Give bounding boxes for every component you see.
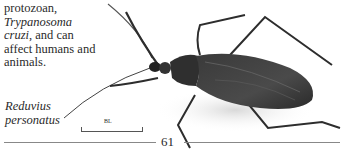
footer-rule-left bbox=[4, 142, 156, 143]
footer-rule-right bbox=[184, 142, 340, 143]
caption-line: Reduvius bbox=[5, 99, 60, 113]
intro-text: protozoan, Trypanosoma cruzi, and can af… bbox=[4, 2, 124, 70]
species-name: cruzi bbox=[4, 28, 29, 42]
caption-line: personatus bbox=[5, 113, 60, 127]
scale-bar-label: BL bbox=[104, 118, 112, 124]
intro-line: , and can bbox=[29, 28, 74, 42]
page-number: 61 bbox=[161, 134, 174, 150]
scale-bar bbox=[81, 127, 143, 132]
intro-line: affect humans and bbox=[4, 43, 124, 57]
species-name: Trypanosoma bbox=[4, 15, 72, 29]
figure-caption: Reduvius personatus bbox=[5, 99, 60, 127]
intro-line: protozoan, bbox=[4, 2, 124, 16]
intro-line: animals. bbox=[4, 56, 124, 70]
